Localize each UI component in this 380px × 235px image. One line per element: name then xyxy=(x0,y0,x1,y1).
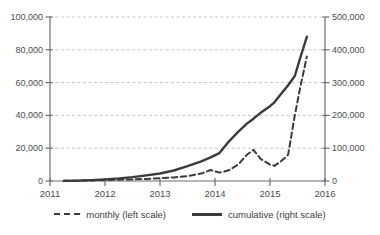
y-left-tick-label: 60,000 xyxy=(15,78,43,88)
y-right-tick-label: 100,000 xyxy=(332,143,365,153)
legend-item-monthly: monthly (left scale) xyxy=(54,209,166,220)
x-tick-label: 2015 xyxy=(259,188,280,199)
x-tick-label: 2011 xyxy=(40,188,60,199)
y-right-tick-label: 200,000 xyxy=(332,110,365,120)
solid-line-swatch xyxy=(192,213,222,216)
y-right-tick-label: 0 xyxy=(332,176,337,186)
dashed-line-swatch xyxy=(54,213,80,215)
y-left-tick-label: 40,000 xyxy=(15,110,43,120)
x-tick-label: 2016 xyxy=(314,188,335,199)
series-line-monthly xyxy=(64,56,307,180)
legend-item-cumulative: cumulative (right scale) xyxy=(192,209,326,220)
chart-legend: monthly (left scale) cumulative (right s… xyxy=(0,205,380,223)
y-left-tick-label: 20,000 xyxy=(15,143,43,153)
y-right-tick-label: 400,000 xyxy=(332,45,365,55)
y-right-tick-label: 500,000 xyxy=(332,12,365,22)
y-left-tick-label: 0 xyxy=(38,176,43,186)
x-tick-label: 2014 xyxy=(204,188,225,199)
legend-label-monthly: monthly (left scale) xyxy=(86,209,166,220)
legend-label-cumulative: cumulative (right scale) xyxy=(228,209,326,220)
y-right-tick-label: 300,000 xyxy=(332,78,365,88)
y-left-tick-label: 80,000 xyxy=(15,45,43,55)
chart-container: 020,00040,00060,00080,000100,0000100,000… xyxy=(0,0,380,235)
dual-axis-line-chart: 020,00040,00060,00080,000100,0000100,000… xyxy=(0,0,380,205)
y-left-tick-label: 100,000 xyxy=(10,12,43,22)
series-line-cumulative xyxy=(64,37,307,181)
x-tick-label: 2013 xyxy=(149,188,170,199)
x-tick-label: 2012 xyxy=(94,188,115,199)
